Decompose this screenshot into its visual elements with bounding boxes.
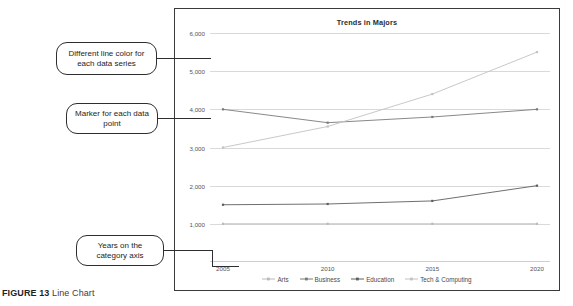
legend-item-education[interactable]: Education	[351, 276, 394, 283]
legend-label: Arts	[277, 276, 288, 283]
data-point-marker	[222, 146, 224, 148]
x-axis-tick-label: 2010	[321, 265, 335, 272]
plot-area: 1,0002,0003,0004,0005,0006,000 200520102…	[210, 33, 550, 262]
x-axis-tick-label: 2020	[530, 265, 544, 272]
callout-marker: Marker for each data point	[66, 103, 158, 134]
chart-legend: ArtsBusinessEducationTech & Computing	[175, 276, 559, 283]
data-point-marker	[431, 200, 433, 202]
data-point-marker	[536, 185, 538, 187]
data-point-marker	[536, 51, 538, 53]
callout-category-axis-connector-h2	[212, 266, 239, 267]
figure-title: Line Chart	[52, 288, 95, 298]
legend-swatch-icon	[351, 276, 364, 283]
callout-category-axis-connector-h1	[163, 250, 213, 251]
y-axis-tick-label: 5,000	[190, 68, 205, 75]
legend-label: Education	[366, 276, 394, 283]
data-point-marker	[536, 223, 538, 225]
y-axis-tick-label: 3,000	[190, 144, 205, 151]
series-line-education	[223, 186, 537, 205]
callout-category-axis-connector-v	[212, 250, 213, 267]
legend-swatch-icon	[262, 276, 275, 283]
callout-line-color-connector	[156, 58, 211, 59]
y-axis-tick-label: 6,000	[190, 30, 205, 37]
legend-item-tech-computing[interactable]: Tech & Computing	[405, 276, 471, 283]
data-point-marker	[327, 122, 329, 124]
legend-label: Tech & Computing	[420, 276, 471, 283]
data-point-marker	[222, 223, 224, 225]
series-line-business	[223, 109, 537, 122]
y-axis-tick-label: 1,000	[190, 220, 205, 227]
chart-title: Trends in Majors	[175, 18, 559, 27]
y-axis-tick-label: 2,000	[190, 182, 205, 189]
series-lines	[210, 33, 550, 262]
y-axis-tick-label: 4,000	[190, 106, 205, 113]
legend-swatch-icon	[405, 276, 418, 283]
series-line-tech-computing	[223, 52, 537, 147]
legend-item-arts[interactable]: Arts	[262, 276, 288, 283]
callout-line-color: Different line color for each data serie…	[56, 42, 157, 75]
figure-label: FIGURE 13	[2, 288, 49, 298]
data-point-marker	[222, 108, 224, 110]
figure-caption: FIGURE 13 Line Chart	[2, 288, 95, 298]
data-point-marker	[431, 116, 433, 118]
legend-item-business[interactable]: Business	[300, 276, 341, 283]
data-point-marker	[327, 125, 329, 127]
data-point-marker	[222, 204, 224, 206]
data-point-marker	[431, 93, 433, 95]
x-axis-tick-label: 2015	[425, 265, 439, 272]
legend-label: Business	[315, 276, 341, 283]
data-point-marker	[536, 108, 538, 110]
callout-marker-connector	[157, 118, 211, 119]
callout-category-axis: Years on the category axis	[76, 235, 164, 266]
legend-swatch-icon	[300, 276, 313, 283]
data-point-marker	[327, 203, 329, 205]
data-point-marker	[327, 223, 329, 225]
data-point-marker	[431, 223, 433, 225]
chart-container: Trends in Majors 1,0002,0003,0004,0005,0…	[174, 8, 560, 291]
